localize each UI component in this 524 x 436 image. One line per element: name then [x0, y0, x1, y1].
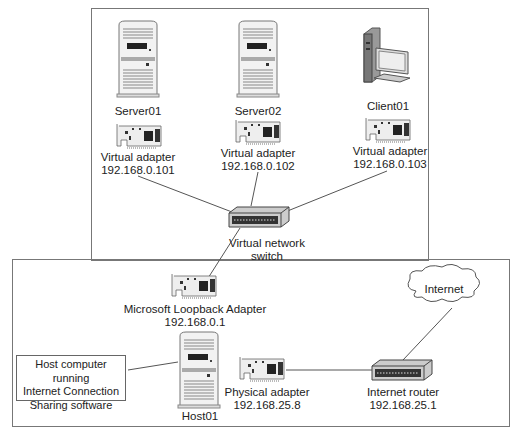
- server02-nic-icon: [236, 120, 280, 144]
- server01-adapter-label: Virtual adapter: [98, 150, 178, 164]
- loopback-label: Microsoft Loopback Adapter: [120, 302, 270, 316]
- virtual-switch-icon: [229, 207, 289, 227]
- server01-name: Server01: [108, 104, 168, 118]
- physical-adapter-ip: 192.168.25.8: [222, 398, 312, 412]
- server02-ip: 192.168.0.102: [218, 159, 298, 173]
- router-icon: [372, 360, 432, 380]
- switch-label-line1: Virtual network: [222, 236, 312, 250]
- physical-adapter-label: Physical adapter: [222, 385, 312, 399]
- client01-adapter-label: Virtual adapter: [350, 144, 430, 158]
- switch-label-line2: switch: [222, 249, 312, 263]
- host-callout: Host computer running Internet Connectio…: [16, 355, 126, 401]
- client01-nic-icon: [366, 118, 410, 142]
- loopback-nic-icon: [172, 274, 216, 298]
- server02-adapter-label: Virtual adapter: [218, 146, 298, 160]
- server01-icon: [117, 21, 159, 97]
- server01-ip: 192.168.0.101: [98, 163, 178, 177]
- loopback-ip: 192.168.0.1: [120, 315, 270, 329]
- server02-icon: [237, 21, 279, 97]
- internet-label: Internet: [414, 282, 474, 296]
- server02-name: Server02: [228, 104, 288, 118]
- physical-nic-icon: [240, 357, 284, 381]
- client01-icon: [364, 28, 410, 82]
- client01-name: Client01: [358, 99, 418, 113]
- callout-line3: Sharing software: [20, 399, 122, 413]
- host01-icon: [178, 332, 220, 408]
- callout-line2: Internet Connection: [20, 385, 122, 399]
- server01-nic-icon: [117, 124, 161, 148]
- host01-name: Host01: [170, 409, 230, 423]
- callout-line1: Host computer running: [20, 358, 122, 385]
- router-ip: 192.168.25.1: [358, 398, 448, 412]
- client01-ip: 192.168.0.103: [350, 157, 430, 171]
- router-label: Internet router: [358, 385, 448, 399]
